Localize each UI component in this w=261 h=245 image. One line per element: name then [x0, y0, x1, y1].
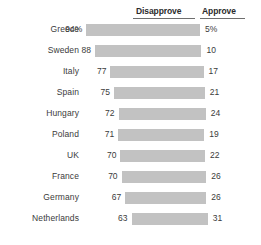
row-country-label: France [0, 171, 79, 181]
approve-header-rule [200, 18, 245, 19]
chart-row: Poland7119 [0, 126, 261, 147]
column-header-approve: Approve [202, 6, 236, 16]
chart-rows: Greece94%5%Sweden8810Italy7717Spain7521H… [0, 21, 261, 231]
row-disapprove-bar [120, 150, 205, 162]
row-approve-value: 5% [205, 24, 235, 34]
row-disapprove-value: 67 [95, 192, 121, 202]
column-header-disapprove: Disapprove [136, 6, 181, 16]
row-disapprove-value: 88 [65, 45, 91, 55]
row-disapprove-bar [125, 192, 206, 204]
chart-row: Germany6726 [0, 189, 261, 210]
chart-row: Greece94%5% [0, 21, 261, 42]
row-disapprove-bar [110, 66, 203, 78]
chart-row: Spain7521 [0, 84, 261, 105]
row-disapprove-bar [119, 108, 206, 120]
row-approve-value: 26 [211, 192, 241, 202]
disapprove-approve-bar-chart: Disapprove Approve Greece94%5%Sweden8810… [0, 0, 261, 245]
chart-row: Netherlands6331 [0, 210, 261, 231]
row-approve-value: 31 [213, 213, 243, 223]
row-disapprove-bar [118, 129, 204, 141]
disapprove-header-rule [133, 18, 195, 19]
row-disapprove-bar [132, 213, 208, 225]
chart-row: Sweden8810 [0, 42, 261, 63]
row-disapprove-value: 77 [80, 66, 106, 76]
row-disapprove-value: 70 [92, 171, 118, 181]
row-approve-value: 22 [210, 150, 240, 160]
row-disapprove-bar [86, 24, 200, 36]
chart-row: UK7022 [0, 147, 261, 168]
row-approve-value: 21 [210, 87, 240, 97]
row-country-label: Italy [0, 66, 79, 76]
row-disapprove-value: 94% [56, 24, 82, 34]
row-approve-value: 17 [209, 66, 239, 76]
row-country-label: Netherlands [0, 213, 79, 223]
row-disapprove-bar [95, 45, 201, 57]
row-disapprove-value: 63 [102, 213, 128, 223]
chart-column-headers: Disapprove Approve [0, 6, 261, 22]
row-disapprove-value: 71 [88, 129, 114, 139]
row-country-label: Germany [0, 192, 79, 202]
row-disapprove-bar [114, 87, 205, 99]
row-disapprove-value: 70 [90, 150, 116, 160]
row-disapprove-value: 72 [89, 108, 115, 118]
row-country-label: Hungary [0, 108, 79, 118]
row-approve-value: 10 [207, 45, 237, 55]
row-country-label: Poland [0, 129, 79, 139]
chart-row: France7026 [0, 168, 261, 189]
row-disapprove-value: 75 [84, 87, 110, 97]
chart-row: Italy7717 [0, 63, 261, 84]
row-country-label: UK [0, 150, 79, 160]
row-country-label: Spain [0, 87, 79, 97]
row-approve-value: 26 [211, 171, 241, 181]
row-approve-value: 19 [209, 129, 239, 139]
chart-row: Hungary7224 [0, 105, 261, 126]
row-disapprove-bar [122, 171, 207, 183]
row-approve-value: 24 [211, 108, 241, 118]
